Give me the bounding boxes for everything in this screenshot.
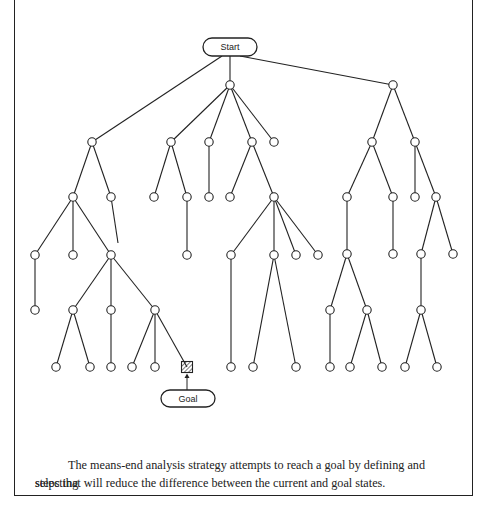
state-node — [449, 250, 457, 258]
tree-edge — [154, 142, 171, 197]
state-node — [270, 193, 278, 201]
state-node — [326, 363, 334, 371]
state-node — [249, 363, 257, 371]
state-node — [88, 138, 96, 146]
tree-edge — [56, 310, 73, 367]
tree-edge — [367, 310, 382, 367]
tree-edge — [372, 142, 393, 197]
tree-edge — [132, 310, 155, 367]
state-node — [368, 138, 376, 146]
state-node — [52, 363, 60, 371]
state-node — [167, 138, 175, 146]
tree-edge — [230, 85, 274, 142]
tree-edge — [274, 197, 296, 255]
state-node — [389, 193, 397, 201]
goal-label: Goal — [178, 394, 197, 404]
state-node — [411, 193, 419, 201]
state-node — [343, 193, 351, 201]
tree-edge — [274, 197, 318, 255]
caption-line-2: steps that will reduce the difference be… — [35, 474, 465, 492]
state-node — [107, 363, 115, 371]
tree-edge — [171, 142, 187, 197]
state-node — [107, 306, 115, 314]
tree-edge — [436, 197, 453, 254]
tree-edge — [230, 142, 252, 197]
tree-edge — [330, 254, 347, 310]
state-node — [205, 138, 213, 146]
tree-edge — [347, 142, 372, 197]
tree-edge — [230, 85, 252, 142]
state-node — [150, 193, 158, 201]
state-node — [270, 138, 278, 146]
tree-edge — [73, 255, 111, 310]
tree-edge — [240, 56, 393, 85]
state-node — [107, 251, 115, 259]
state-node — [401, 363, 409, 371]
state-node — [151, 363, 159, 371]
state-node — [31, 306, 39, 314]
state-node — [248, 138, 256, 146]
state-node — [227, 363, 235, 371]
start-node: Start — [203, 38, 257, 56]
state-node — [292, 363, 300, 371]
tree-edge — [73, 310, 90, 367]
state-node — [417, 250, 425, 258]
tree-edge — [92, 142, 111, 197]
state-node — [183, 251, 191, 259]
tree-edge — [35, 197, 73, 255]
state-node — [205, 193, 213, 201]
tree-edge — [111, 197, 118, 243]
tree-edge — [274, 255, 296, 367]
state-node — [69, 193, 77, 201]
state-node — [270, 251, 278, 259]
state-node — [432, 193, 440, 201]
tree-edge — [350, 310, 367, 367]
state-node — [107, 193, 115, 201]
search-tree-diagram: Start Goal — [0, 0, 483, 509]
state-node — [69, 306, 77, 314]
tree-edge — [253, 255, 274, 367]
state-node — [86, 363, 94, 371]
state-node — [128, 363, 136, 371]
tree-edge — [252, 142, 274, 197]
tree-edge — [155, 310, 187, 367]
tree-edges — [35, 56, 453, 367]
tree-edge — [405, 310, 421, 367]
tree-edge — [231, 197, 274, 255]
state-node — [226, 193, 234, 201]
state-node — [292, 251, 300, 259]
tree-edge — [372, 85, 393, 142]
tree-edge — [171, 85, 230, 142]
tree-edge — [73, 142, 92, 197]
arrow-up-icon — [185, 374, 190, 379]
state-node — [151, 306, 159, 314]
state-node — [417, 306, 425, 314]
state-node — [343, 250, 351, 258]
state-node — [363, 306, 371, 314]
state-node — [326, 306, 334, 314]
tree-edge — [415, 142, 436, 197]
tree-edge — [73, 197, 111, 255]
tree-edge — [421, 197, 436, 254]
tree-edge — [92, 56, 222, 142]
state-node — [346, 363, 354, 371]
state-node — [411, 138, 419, 146]
state-node — [433, 363, 441, 371]
tree-edge — [393, 85, 415, 142]
state-node — [183, 193, 191, 201]
start-label: Start — [220, 42, 240, 52]
state-node — [227, 251, 235, 259]
tree-edge — [347, 254, 367, 310]
tree-edge — [209, 85, 230, 142]
tree-edge — [111, 255, 155, 310]
state-node — [378, 363, 386, 371]
state-node — [226, 81, 234, 89]
state-node — [314, 251, 322, 259]
state-node — [389, 81, 397, 89]
tree-edge — [421, 310, 437, 367]
goal-node: Goal — [161, 362, 215, 408]
state-node — [31, 251, 39, 259]
state-node — [389, 250, 397, 258]
state-node — [69, 251, 77, 259]
